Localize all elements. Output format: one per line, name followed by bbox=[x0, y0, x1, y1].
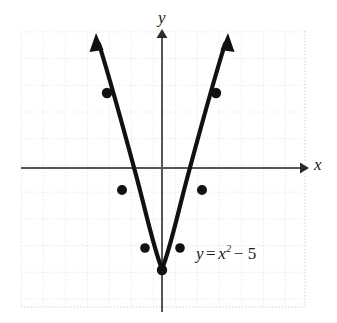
data-point bbox=[211, 88, 221, 98]
data-point bbox=[175, 243, 185, 253]
equation-lhs: y bbox=[196, 244, 204, 263]
y-axis-label: y bbox=[158, 9, 166, 26]
data-point bbox=[102, 88, 112, 98]
equation-minus: − bbox=[232, 244, 246, 263]
parabola-figure: y x y=x2−5 bbox=[0, 0, 337, 323]
data-point bbox=[197, 185, 207, 195]
equation-constant: 5 bbox=[246, 244, 259, 263]
equation-equals: = bbox=[204, 244, 218, 263]
equation-annotation: y=x2−5 bbox=[196, 245, 259, 262]
equation-exponent: 2 bbox=[226, 243, 232, 254]
equation-base: x bbox=[218, 244, 226, 263]
x-axis-label: x bbox=[314, 156, 322, 173]
data-point-vertex bbox=[157, 265, 167, 275]
graph-canvas bbox=[0, 0, 337, 323]
data-point bbox=[140, 243, 150, 253]
data-point bbox=[117, 185, 127, 195]
